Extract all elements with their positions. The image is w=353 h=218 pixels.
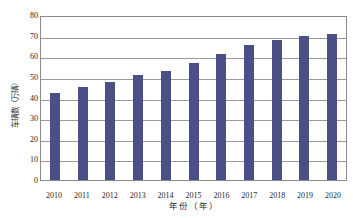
y-tick-label: 40	[18, 95, 38, 103]
x-tick-slot: 2016	[207, 184, 235, 196]
y-tick-label: 10	[18, 156, 38, 164]
x-tick-slot: 2019	[291, 184, 319, 196]
y-axis-tick-labels: 01020304050607080	[18, 12, 38, 184]
bars-layer	[41, 17, 346, 180]
bar-2013[interactable]	[133, 75, 143, 180]
bar-2016[interactable]	[216, 54, 226, 180]
x-tick-slot: 2011	[68, 184, 96, 196]
y-tick-label: 60	[18, 53, 38, 61]
bar-chart-figure: 车辆数（万辆） 01020304050607080 20102011201220…	[0, 0, 353, 218]
bar-slot	[291, 17, 319, 180]
y-tick-label: 80	[18, 12, 38, 20]
bar-2011[interactable]	[78, 87, 88, 180]
x-tick-slot: 2010	[40, 184, 68, 196]
bar-2018[interactable]	[272, 40, 282, 180]
plot-area	[40, 16, 347, 181]
bar-slot	[207, 17, 235, 180]
bar-2010[interactable]	[50, 93, 60, 180]
bar-2017[interactable]	[244, 45, 254, 180]
bar-2012[interactable]	[105, 82, 115, 180]
bar-slot	[124, 17, 152, 180]
bar-2015[interactable]	[189, 63, 199, 180]
bar-slot	[41, 17, 69, 180]
y-tick-label: 20	[18, 136, 38, 144]
y-tick-label: 70	[18, 33, 38, 41]
y-tick-label: 50	[18, 74, 38, 82]
bar-slot	[69, 17, 97, 180]
bar-2019[interactable]	[299, 36, 309, 180]
x-tick-slot: 2015	[180, 184, 208, 196]
y-tick-label: 30	[18, 115, 38, 123]
bar-slot	[180, 17, 208, 180]
bar-2020[interactable]	[327, 34, 337, 180]
x-axis-tick-labels: 2010201120122013201420152016201720182019…	[40, 184, 347, 196]
x-tick-slot: 2017	[235, 184, 263, 196]
bar-slot	[96, 17, 124, 180]
x-axis-title: 年份（年）	[40, 199, 347, 211]
x-tick-slot: 2020	[319, 184, 347, 196]
bar-slot	[235, 17, 263, 180]
bar-slot	[318, 17, 346, 180]
bar-slot	[152, 17, 180, 180]
y-tick-label: 0	[18, 177, 38, 185]
x-tick-slot: 2013	[124, 184, 152, 196]
x-tick-slot: 2014	[152, 184, 180, 196]
bar-2014[interactable]	[161, 71, 171, 180]
x-tick-slot: 2018	[263, 184, 291, 196]
x-tick-slot: 2012	[96, 184, 124, 196]
bar-slot	[263, 17, 291, 180]
